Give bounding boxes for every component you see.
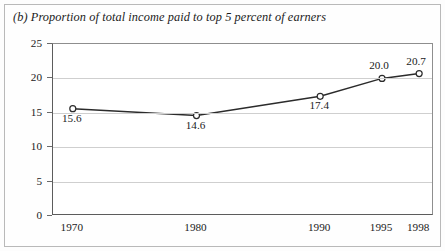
data-point-label: 14.6 [186, 119, 206, 131]
y-axis-tick-label: 0 [12, 209, 42, 221]
gridline [53, 78, 432, 79]
figure-container: (b) Proportion of total income paid to t… [0, 0, 445, 251]
data-point-label: 15.6 [62, 112, 82, 124]
x-axis-tick-label: 1980 [172, 221, 218, 233]
y-axis-tick [47, 77, 52, 78]
gridline [53, 147, 432, 148]
y-axis-tick [47, 181, 52, 182]
gridline [53, 182, 432, 183]
y-axis-tick [47, 146, 52, 147]
data-point-marker [416, 71, 422, 77]
x-axis-tick-label: 1970 [49, 221, 95, 233]
y-axis-tick-label: 5 [12, 175, 42, 187]
y-axis-tick-label: 20 [12, 71, 42, 83]
y-axis-tick [47, 215, 52, 216]
data-point-label: 17.4 [309, 99, 329, 111]
y-axis-tick [47, 112, 52, 113]
y-axis-tick [47, 43, 52, 44]
data-line [73, 74, 419, 116]
x-axis-tick-label: 1998 [395, 221, 441, 233]
x-axis-tick-label: 1990 [296, 221, 342, 233]
chart-title: (b) Proportion of total income paid to t… [13, 10, 326, 25]
y-axis-tick-label: 10 [12, 140, 42, 152]
gridline [53, 113, 432, 114]
data-point-label: 20.0 [369, 59, 389, 71]
data-point-label: 20.7 [406, 55, 426, 67]
y-axis-tick-label: 15 [12, 106, 42, 118]
y-axis-tick-label: 25 [12, 37, 42, 49]
